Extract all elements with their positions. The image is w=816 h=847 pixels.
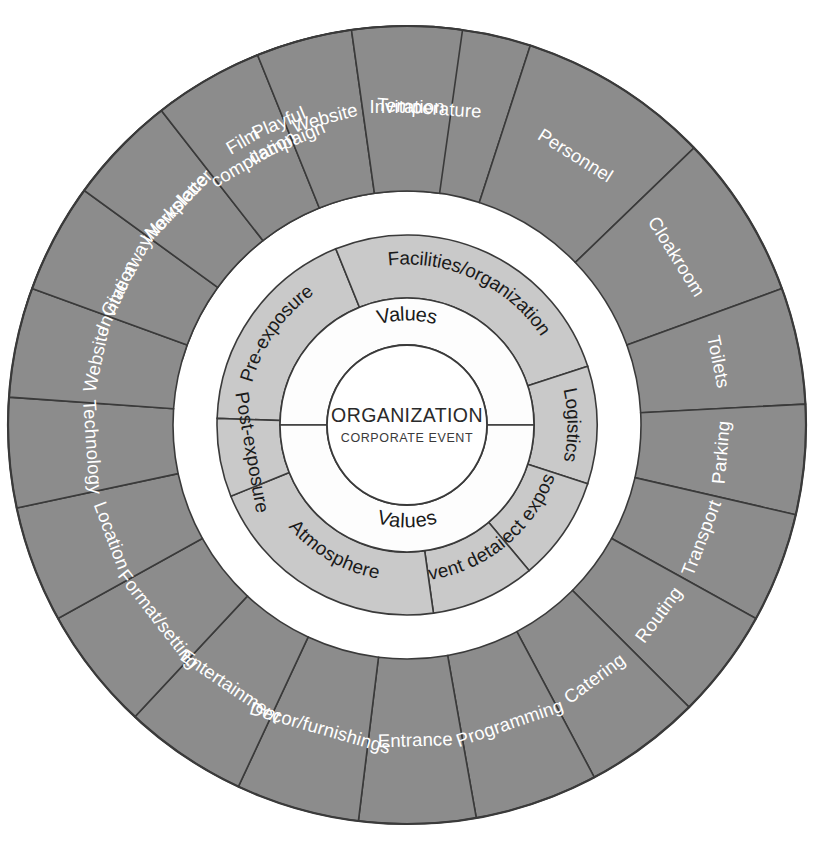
outer-label-23: Invitation xyxy=(369,96,444,117)
values-label-top: Values xyxy=(375,303,440,329)
svg-text:Invitation: Invitation xyxy=(369,96,444,117)
core-title: ORGANIZATION xyxy=(331,404,483,426)
mid-segment-2[interactable] xyxy=(528,366,597,483)
wheel-svg: InvitationWorkplacePlayfulcampaignTemper… xyxy=(0,0,816,847)
core-subtitle: CORPORATE EVENT xyxy=(341,431,473,445)
sunburst-diagram: InvitationWorkplacePlayfulcampaignTemper… xyxy=(0,0,816,847)
